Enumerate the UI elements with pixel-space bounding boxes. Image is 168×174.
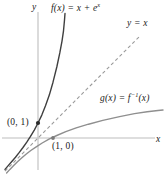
point-marker-0-1 [36, 121, 40, 125]
function-f-label-exponent: x [97, 1, 100, 8]
y-axis-label: y [32, 3, 36, 13]
inverse-function-graph-figure: y x f(x) = x + ex y = x g(x) = f−1(x) (0… [0, 0, 168, 174]
point-label-1-0: (1, 0) [52, 142, 74, 152]
x-axis-label: x [156, 135, 160, 145]
function-g-label-suffix: (x) [138, 93, 149, 103]
function-f-label-prefix: f(x) = x + e [51, 3, 97, 13]
curve-g-of-x-inverse [7, 110, 163, 173]
identity-line-label: y = x [127, 19, 148, 29]
function-f-label: f(x) = x + ex [51, 4, 100, 14]
function-g-label-prefix: g(x) = f [100, 93, 131, 103]
function-g-label: g(x) = f−1(x) [100, 94, 150, 104]
point-marker-1-0 [51, 136, 55, 140]
point-label-0-1: (0, 1) [7, 118, 29, 128]
